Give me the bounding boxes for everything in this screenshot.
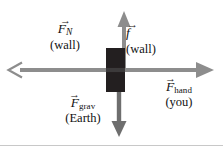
gravity-force-subscript: grav (79, 101, 95, 111)
vector-arrow-icon: → (32, 89, 116, 100)
normal-force-subscript: N (66, 27, 72, 37)
normal-force-arrowhead-open (9, 63, 23, 78)
normal-force-agent: (wall) (33, 39, 97, 52)
vector-arrow-icon: → (33, 15, 97, 26)
normal-force-arrow (9, 63, 117, 78)
hand-force-agent: (you) (148, 96, 210, 109)
hand-force-subscript: hand (174, 85, 192, 95)
hand-force-label: → Fhand (you) (148, 80, 210, 110)
friction-force-agent: (wall) (126, 43, 184, 56)
force-diagram-figure: → FN (wall) → f (wall) → Fhand (you) → F… (0, 0, 223, 146)
gravity-force-symbol: → Fgrav (50, 96, 116, 111)
vector-arrow-icon: → (127, 19, 139, 30)
normal-force-label: → FN (wall) (33, 22, 97, 52)
gravity-force-label: → Fgrav (Earth) (50, 96, 116, 126)
hand-force-symbol: → Fhand (148, 80, 210, 95)
normal-force-symbol: → FN (33, 22, 97, 38)
gravity-force-agent: (Earth) (50, 112, 116, 125)
friction-force-label: → f (wall) (126, 26, 184, 56)
friction-force-symbol: → f (126, 26, 184, 42)
vector-arrow-icon: → (130, 73, 210, 84)
